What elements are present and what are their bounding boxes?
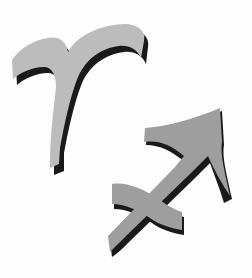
aries-symbol [12,24,148,175]
aries-fill [12,24,144,168]
zodiac-illustration [0,0,252,278]
sagittarius-symbol [108,108,232,257]
